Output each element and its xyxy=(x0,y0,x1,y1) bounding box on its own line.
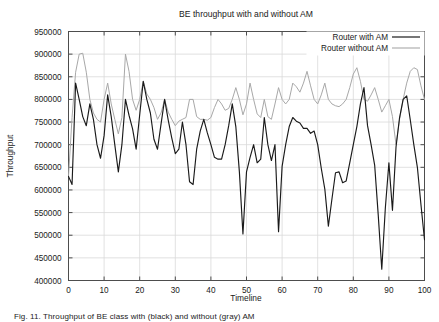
x-tick-label: 30 xyxy=(171,286,181,295)
figure-caption: Fig. 11. Throughput of BE class with (bl… xyxy=(14,312,434,322)
legend-label-router-without-am: Router without AM xyxy=(321,44,388,53)
y-tick-label: 450000 xyxy=(34,254,62,263)
x-tick-label: 80 xyxy=(349,286,359,295)
y-tick-label: 900000 xyxy=(34,50,62,59)
y-tick-label: 700000 xyxy=(34,141,62,150)
x-tick-label: 100 xyxy=(418,286,432,295)
y-tick-label: 950000 xyxy=(34,28,62,37)
y-tick-label: 800000 xyxy=(34,95,62,104)
legend-label-router-with-am: Router with AM xyxy=(332,33,388,42)
throughput-line-chart: 4000004500005000005500006000006500007000… xyxy=(0,0,439,322)
y-tick-label: 400000 xyxy=(34,277,62,286)
y-tick-label: 750000 xyxy=(34,118,62,127)
x-tick-label: 90 xyxy=(384,286,394,295)
x-axis-title: Timeline xyxy=(230,293,262,303)
chart-title: BE throughput with and without AM xyxy=(179,9,313,19)
x-tick-label: 20 xyxy=(135,286,145,295)
x-tick-label: 10 xyxy=(100,286,110,295)
y-tick-label: 850000 xyxy=(34,73,62,82)
y-tick-label: 500000 xyxy=(34,231,62,240)
x-tick-label: 0 xyxy=(66,286,71,295)
x-tick-label: 60 xyxy=(278,286,288,295)
x-tick-label: 70 xyxy=(313,286,323,295)
y-tick-label: 650000 xyxy=(34,163,62,172)
y-axis-title: Throughput xyxy=(5,134,15,178)
figure-container: 4000004500005000005500006000006500007000… xyxy=(0,0,439,322)
chart-legend: Router with AM Router without AM xyxy=(307,32,425,56)
y-tick-label: 600000 xyxy=(34,186,62,195)
y-tick-label: 550000 xyxy=(34,209,62,218)
x-tick-label: 40 xyxy=(206,286,216,295)
